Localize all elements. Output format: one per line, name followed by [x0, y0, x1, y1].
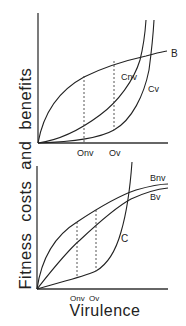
curve-b [38, 51, 167, 143]
label-ov-top: Ov [109, 148, 121, 158]
bottom-panel: Bnv Bv C Onv Ov [37, 162, 168, 303]
label-b: B [171, 48, 178, 59]
curve-bv [37, 188, 168, 289]
curve-c [37, 162, 132, 289]
label-c: C [121, 233, 128, 244]
x-axis-label: Virulence [40, 302, 170, 320]
label-bnv: Bnv [150, 173, 166, 183]
label-cv: Cv [148, 84, 159, 94]
y-axis-label: Fitness costs and benefits [16, 100, 35, 290]
top-panel: B Cnv Cv Onv Ov [38, 13, 178, 158]
label-onv-top: Onv [77, 148, 94, 158]
label-bv: Bv [150, 192, 161, 202]
label-cnv: Cnv [121, 72, 138, 82]
curve-bnv [37, 184, 168, 289]
